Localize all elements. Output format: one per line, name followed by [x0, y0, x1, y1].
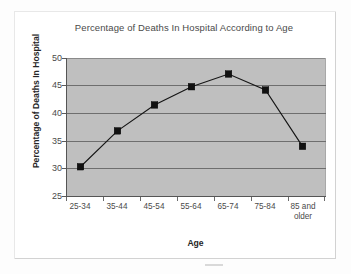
scan-artifact [205, 264, 223, 266]
data-point-85-and-older [299, 143, 306, 150]
chart-figure: Percentage of Deaths In Hospital Accordi… [0, 0, 351, 274]
data-point-25-34 [77, 163, 84, 170]
data-point-55-64 [188, 83, 195, 90]
data-point-75-84 [262, 87, 269, 94]
series-overlay [0, 0, 351, 274]
data-point-65-74 [225, 71, 232, 78]
data-point-35-44 [114, 128, 121, 135]
data-point-45-54 [151, 102, 158, 109]
series-markers [77, 71, 306, 170]
